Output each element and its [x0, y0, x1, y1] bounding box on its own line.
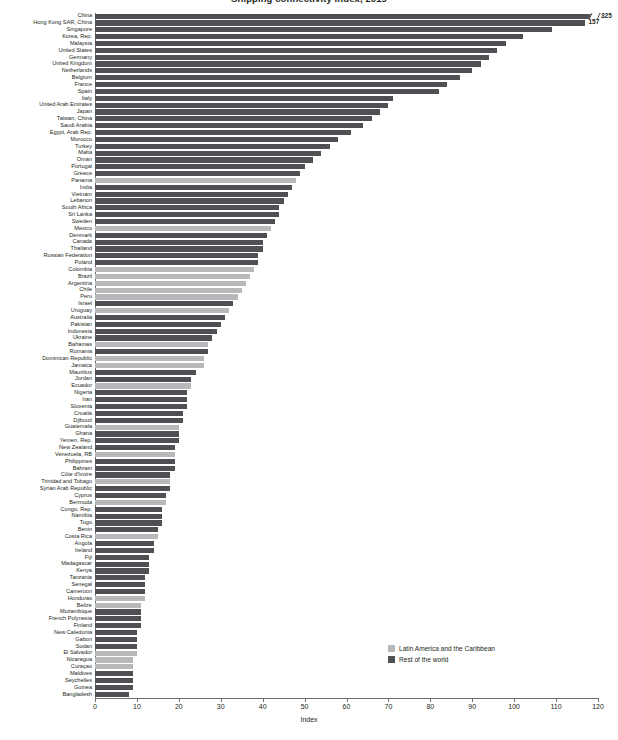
bar-belgium[interactable] — [95, 75, 460, 80]
bar-saudi-arabia[interactable] — [95, 123, 363, 128]
bar-costa-rica[interactable] — [95, 534, 158, 539]
bar-finland[interactable] — [95, 623, 141, 628]
bar-pakistan[interactable] — [95, 322, 221, 327]
bar-sudan[interactable] — [95, 644, 137, 649]
bar-new-zealand[interactable] — [95, 445, 175, 450]
bar-mauritius[interactable] — [95, 370, 196, 375]
bar-togo[interactable] — [95, 520, 162, 525]
bar-el-salvador[interactable] — [95, 651, 137, 656]
bar-denmark[interactable] — [95, 233, 267, 238]
bar-germany[interactable] — [95, 55, 489, 60]
bar-korea-rep[interactable] — [95, 34, 523, 39]
bar-lebanon[interactable] — [95, 198, 284, 203]
bar-united-states[interactable] — [95, 48, 497, 53]
bar-peru[interactable] — [95, 294, 238, 299]
bar-guatemala[interactable] — [95, 425, 179, 430]
bar-fiji[interactable] — [95, 555, 149, 560]
bar-jamaica[interactable] — [95, 363, 204, 368]
bar-romania[interactable] — [95, 349, 208, 354]
bar-seychelles[interactable] — [95, 678, 133, 683]
bar-bermuda[interactable] — [95, 500, 166, 505]
legend-item-row[interactable]: Rest of the world — [388, 656, 495, 663]
bar-gabon[interactable] — [95, 637, 137, 642]
bar-russian-federation[interactable] — [95, 253, 258, 258]
bar-bangladesh[interactable] — [95, 692, 129, 697]
bar-italy[interactable] — [95, 96, 393, 101]
bar-c-te-d-ivoire[interactable] — [95, 472, 170, 477]
bar-india[interactable] — [95, 185, 292, 190]
bar-guinea[interactable] — [95, 685, 133, 690]
bar-madagascar[interactable] — [95, 562, 149, 567]
bar-taiwan-china[interactable] — [95, 116, 372, 121]
bar-namibia[interactable] — [95, 514, 162, 519]
bar-slovenia[interactable] — [95, 404, 187, 409]
bar-malta[interactable] — [95, 151, 321, 156]
bar-malaysia[interactable] — [95, 41, 506, 46]
bar-colombia[interactable] — [95, 267, 254, 272]
bar-maldives[interactable] — [95, 671, 133, 676]
bar-france[interactable] — [95, 82, 447, 87]
bar-cameroon[interactable] — [95, 589, 145, 594]
bar-egypt-arab-rep[interactable] — [95, 130, 351, 135]
bar-panama[interactable] — [95, 178, 296, 183]
bar-ghana[interactable] — [95, 431, 179, 436]
bar-singapore[interactable] — [95, 27, 552, 32]
bar-netherlands[interactable] — [95, 68, 472, 73]
bar-congo-rep[interactable] — [95, 507, 162, 512]
bar-united-arab-emirates[interactable] — [95, 103, 388, 108]
bar-croatia[interactable] — [95, 411, 183, 416]
bar-venezuela-rb[interactable] — [95, 452, 175, 457]
bar-new-caledonia[interactable] — [95, 630, 137, 635]
bar-mexico[interactable] — [95, 226, 271, 231]
bar-ireland[interactable] — [95, 548, 154, 553]
bar-chile[interactable] — [95, 288, 242, 293]
bar-tanzania[interactable] — [95, 575, 145, 580]
bar-japan[interactable] — [95, 109, 380, 114]
bar-sri-lanka[interactable] — [95, 212, 279, 217]
bar-sweden[interactable] — [95, 219, 275, 224]
bar-french-polynesia[interactable] — [95, 616, 141, 621]
bar-thailand[interactable] — [95, 246, 263, 251]
bar-morocco[interactable] — [95, 137, 338, 142]
bar-bahrain[interactable] — [95, 466, 175, 471]
bar-south-africa[interactable] — [95, 205, 279, 210]
bar-china[interactable] — [95, 14, 598, 19]
bar-trinidad-and-tobago[interactable] — [95, 479, 170, 484]
bar-belize[interactable] — [95, 603, 141, 608]
legend-item-lac[interactable]: Latin America and the Caribbean — [388, 645, 495, 652]
bar-ukraine[interactable] — [95, 335, 212, 340]
bar-vietnam[interactable] — [95, 192, 288, 197]
bar-poland[interactable] — [95, 260, 258, 265]
bar-senegal[interactable] — [95, 582, 145, 587]
bar-kenya[interactable] — [95, 568, 149, 573]
bar-honduras[interactable] — [95, 596, 145, 601]
bar-brazil[interactable] — [95, 274, 250, 279]
bar-uruguay[interactable] — [95, 308, 229, 313]
bar-yemen-rep[interactable] — [95, 438, 179, 443]
bar-nigeria[interactable] — [95, 390, 187, 395]
bar-syrian-arab-republic[interactable] — [95, 486, 170, 491]
bar-jordan[interactable] — [95, 377, 191, 382]
bar-united-kingdom[interactable] — [95, 61, 481, 66]
bar-nicaragua[interactable] — [95, 657, 133, 662]
bar-dominican-republic[interactable] — [95, 356, 204, 361]
bar-greece[interactable] — [95, 171, 300, 176]
bar-hong-kong-sar-china[interactable] — [95, 20, 585, 25]
bar-oman[interactable] — [95, 157, 313, 162]
bar-philippines[interactable] — [95, 459, 175, 464]
bar-angola[interactable] — [95, 541, 154, 546]
bar-australia[interactable] — [95, 315, 225, 320]
bar-cyprus[interactable] — [95, 493, 166, 498]
bar-turkey[interactable] — [95, 144, 330, 149]
bar-bahamas[interactable] — [95, 342, 208, 347]
bar-canada[interactable] — [95, 240, 263, 245]
bar-cura-ao[interactable] — [95, 664, 133, 669]
bar-portugal[interactable] — [95, 164, 305, 169]
bar-mozambique[interactable] — [95, 609, 141, 614]
bar-indonesia[interactable] — [95, 329, 217, 334]
bar-iran[interactable] — [95, 397, 187, 402]
bar-benin[interactable] — [95, 527, 158, 532]
bar-ecuador[interactable] — [95, 383, 191, 388]
bar-djibouti[interactable] — [95, 418, 183, 423]
bar-israel[interactable] — [95, 301, 233, 306]
